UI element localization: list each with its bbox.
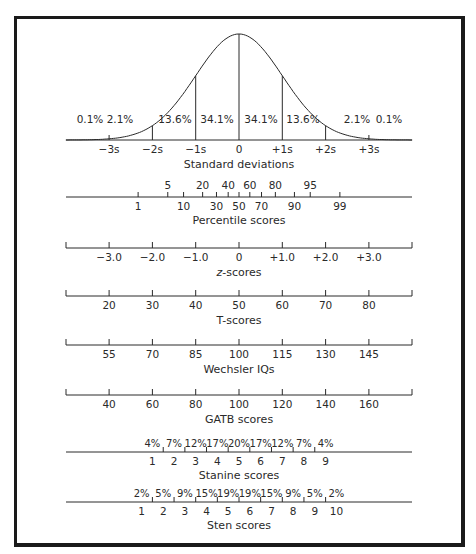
scale-tick-label: 40 [189,299,202,311]
sd-axis-title: Standard deviations [184,158,295,171]
sten-percent-label: 15% [195,488,217,499]
sten-percent-label: 9% [177,488,193,499]
sten-score-label: 5 [225,505,232,517]
sten-percent-label: 2% [134,488,150,499]
percentile-upper-label: 5 [164,179,171,191]
scale-title: GATB scores [205,413,274,426]
scale-tick-label: 20 [102,299,115,311]
scale-tick-label: 0 [236,251,243,263]
scale-tick-label: 160 [359,398,379,410]
scale-tick-label: −2.0 [140,251,166,263]
scale-tick-label: 85 [189,348,202,360]
sten-score-label: 1 [138,505,145,517]
scale-tick-label: 115 [272,348,292,360]
sten-score-label: 3 [182,505,189,517]
sten-percent-label: 9% [285,488,301,499]
scale-tick-label: 60 [276,299,289,311]
stanine-percent-label: 4% [144,438,160,449]
stanine-percent-label: 17% [206,438,228,449]
area-percent-labels: 0.1%2.1%13.6%34.1%34.1%13.6%2.1%0.1% [77,113,403,125]
area-percent-label: 34.1% [200,113,233,125]
scale-title: T-scores [216,314,262,327]
score-scales: 520406080951103050709099Percentile score… [66,179,412,532]
percentile-lower-label: 10 [177,200,190,212]
scale-tick-label: 80 [189,398,202,410]
scale-gatb: 406080100120140160GATB scores [66,389,412,426]
scale-tick-label: 145 [359,348,379,360]
stanine-score-label: 7 [279,455,286,467]
scale-tick-label: 40 [102,398,115,410]
bell-curve: 0.1%2.1%13.6%34.1%34.1%13.6%2.1%0.1% −3s… [66,34,412,171]
sten-score-label: 7 [268,505,275,517]
percentile-upper-label: 20 [196,179,209,191]
scale-tick-label: 50 [232,299,245,311]
stanine-score-label: 9 [322,455,329,467]
area-percent-label: 0.1% [77,113,104,125]
scale-tick-label: 140 [316,398,336,410]
scale-title: Percentile scores [192,214,285,227]
sd-tick-labels: −3s−2s−1s0+1s+2s+3s [99,143,380,155]
scale-tick-label: 100 [229,398,249,410]
sten-percent-label: 15% [260,488,282,499]
scale-tick-label: 60 [146,398,159,410]
scale-tick-label: 30 [146,299,159,311]
sten-score-label: 10 [330,505,343,517]
scale-title: z-scores [215,266,261,279]
sd-tick-label: 0 [236,143,243,155]
area-percent-label: 2.1% [344,113,371,125]
scale-tick-label: 100 [229,348,249,360]
percentile-upper-label: 60 [243,179,256,191]
scale-tick-label: 120 [272,398,292,410]
area-percent-label: 13.6% [286,113,319,125]
percentile-lower-label: 1 [135,200,142,212]
scale-tick-label: 80 [362,299,375,311]
scale-title: Stanine scores [199,469,280,482]
sd-tick-label: +2s [315,143,336,155]
percentile-lower-label: 50 [232,200,245,212]
percentile-lower-label: 70 [255,200,268,212]
scale-stanine: 4%17%212%317%420%517%612%77%84%9Stanine … [66,438,412,482]
scale-tick-label: +2.0 [313,251,339,263]
scale-tick-label: 70 [319,299,332,311]
scale-z: −3.0−2.0−1.00+1.0+2.0+3.0z-scores [66,242,412,279]
stanine-percent-label: 12% [271,438,293,449]
sd-tick-label: −1s [185,143,206,155]
stanine-score-label: 6 [257,455,264,467]
stanine-score-label: 2 [171,455,178,467]
sd-tick-label: −3s [99,143,120,155]
area-percent-label: 13.6% [158,113,191,125]
percentile-lower-label: 99 [333,200,346,212]
scale-tick-label: −1.0 [183,251,209,263]
scale-tick-label: −3.0 [96,251,122,263]
stanine-percent-label: 4% [318,438,334,449]
sten-percent-label: 5% [307,488,323,499]
percentile-lower-label: 90 [288,200,301,212]
scale-tick-label: 130 [316,348,336,360]
scale-tick-label: +3.0 [356,251,382,263]
percentile-lower-label: 30 [210,200,223,212]
area-percent-label: 34.1% [244,113,277,125]
sten-score-label: 2 [160,505,167,517]
stanine-score-label: 8 [301,455,308,467]
area-percent-label: 0.1% [376,113,403,125]
percentile-upper-label: 80 [269,179,282,191]
sten-percent-label: 5% [155,488,171,499]
sten-score-label: 9 [311,505,318,517]
scale-title: Wechsler IQs [203,363,274,376]
stanine-percent-label: 12% [185,438,207,449]
stanine-percent-label: 7% [296,438,312,449]
stanine-score-label: 5 [236,455,243,467]
sd-dividers [109,34,369,140]
sten-score-label: 6 [246,505,253,517]
scale-sten: 2%15%29%315%419%519%615%79%85%92%10Sten … [66,488,412,532]
sten-percent-label: 19% [217,488,239,499]
scale-wechsler: 557085100115130145Wechsler IQs [66,339,412,376]
sd-tick-label: +1s [272,143,293,155]
scale-title: Sten scores [207,519,271,532]
stanine-score-label: 1 [149,455,156,467]
sten-percent-label: 2% [328,488,344,499]
scale-tick-label: 70 [146,348,159,360]
area-percent-label: 2.1% [107,113,134,125]
percentile-upper-label: 40 [221,179,234,191]
stanine-percent-label: 7% [166,438,182,449]
